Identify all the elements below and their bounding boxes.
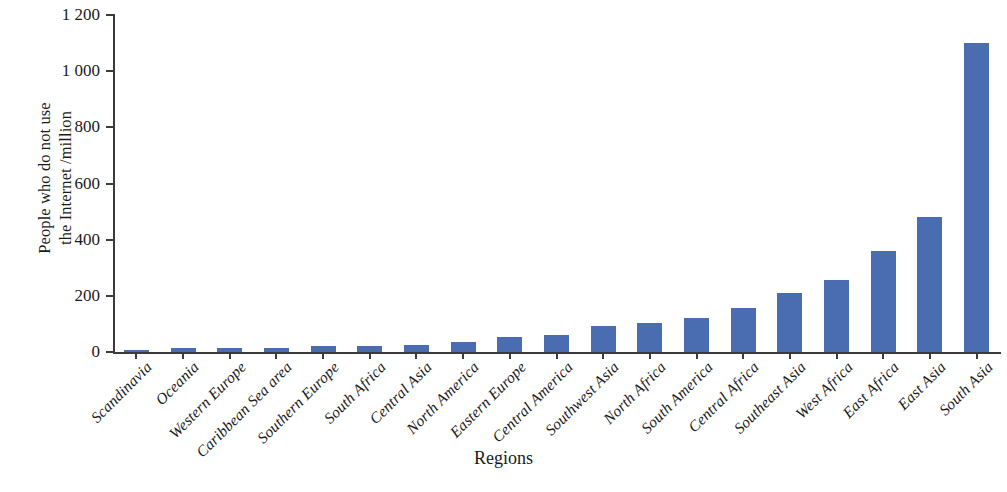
bar: [731, 308, 756, 352]
bar: [217, 348, 242, 352]
y-axis-tick: 600: [106, 183, 115, 185]
y-axis-tick-label: 800: [75, 117, 101, 137]
y-axis-tick: 200: [106, 295, 115, 297]
bar: [264, 348, 289, 352]
y-axis-title-line-1: People who do not use: [34, 102, 55, 254]
bar: [591, 326, 616, 352]
bar: [497, 337, 522, 352]
y-axis-title-line-2: the Internet /million: [55, 111, 76, 245]
bar: [171, 348, 196, 352]
y-axis-tick-label: 600: [75, 174, 101, 194]
bar: [824, 280, 849, 352]
x-axis-category-label: Scandinavia: [88, 358, 156, 426]
x-axis-title: Regions: [0, 448, 1007, 469]
bar: [451, 342, 476, 352]
bar: [357, 346, 382, 352]
bar: [684, 318, 709, 352]
y-axis-tick-label: 0: [92, 342, 101, 362]
y-axis-tick: 1 000: [106, 70, 115, 72]
y-axis-tick-label: 200: [75, 286, 101, 306]
bar: [917, 217, 942, 352]
bar: [124, 350, 149, 353]
x-axis-category-label: Southern Europe: [254, 358, 343, 447]
bar: [544, 335, 569, 352]
bar: [777, 293, 802, 352]
y-axis-tick: 0: [106, 351, 115, 353]
y-axis-tick-label: 1 200: [62, 5, 100, 25]
y-axis-tick-label: 400: [75, 230, 101, 250]
bar: [871, 251, 896, 352]
plot-area: 02004006008001 0001 200: [113, 15, 1000, 352]
y-axis-tick: 400: [106, 239, 115, 241]
bar: [311, 346, 336, 352]
bar: [404, 345, 429, 352]
y-axis-tick-label: 1 000: [62, 61, 100, 81]
bar-chart-figure: People who do not use the Internet /mill…: [0, 0, 1007, 492]
bar: [637, 323, 662, 352]
y-axis-tick: 1 200: [106, 14, 115, 16]
bar: [964, 43, 989, 352]
x-axis-category-label: Central America: [488, 358, 576, 446]
y-axis-tick: 800: [106, 126, 115, 128]
